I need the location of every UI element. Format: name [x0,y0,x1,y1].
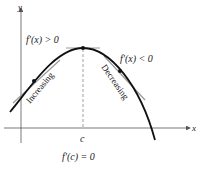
point-increasing [32,79,36,83]
point-critical [81,46,85,50]
derivative-diagram: y x f′(x) > 0 f′(x) < 0 Increasing Decre… [0,0,203,170]
y-axis-label: y [17,2,22,12]
critical-condition-label: f′(c) = 0 [62,151,95,163]
critical-point-label: c [80,133,85,144]
x-axis-label: x [191,123,196,133]
left-derivative-label: f′(x) > 0 [26,34,59,46]
point-decreasing [118,69,122,73]
right-derivative-label: f′(x) < 0 [120,53,153,65]
